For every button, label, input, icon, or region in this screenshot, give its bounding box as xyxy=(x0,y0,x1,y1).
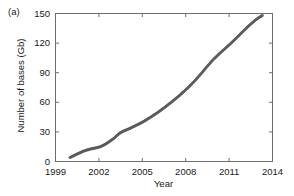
figure-panel-a: (a) Number of bases (Gb) Year 0306090120… xyxy=(0,0,294,196)
x-tick-label: 2002 xyxy=(79,167,119,177)
x-tick-label: 2005 xyxy=(122,167,162,177)
x-tick-label: 2014 xyxy=(253,167,293,177)
x-tick-label: 1999 xyxy=(36,167,76,177)
x-axis-tick-labels: 199920022005200820112014 xyxy=(0,0,294,196)
x-tick-label: 2011 xyxy=(209,167,249,177)
x-tick-label: 2008 xyxy=(166,167,206,177)
